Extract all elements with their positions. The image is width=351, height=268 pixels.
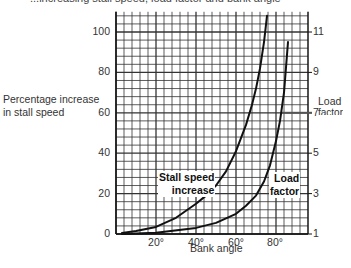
x-axis-title: Bank angle: [190, 242, 243, 254]
chart-plot: [0, 0, 351, 268]
y2-tick-7: 7: [313, 106, 319, 118]
y-tick-20: 20: [80, 187, 110, 199]
load-factor-curve-label: Load factor: [269, 172, 300, 198]
y2-axis-title-line1: Load: [318, 96, 343, 107]
stall-speed-curve-label: Stall speed increase: [158, 171, 215, 197]
y-tick-0: 0: [80, 227, 110, 239]
x-tick-80: 80°: [260, 236, 290, 248]
x-tick-20: 20°: [141, 236, 171, 248]
y2-tick-3: 3: [313, 187, 319, 199]
load-label-line2: factor: [270, 185, 299, 198]
load-label-line1: Load: [270, 172, 299, 185]
y-tick-40: 40: [80, 146, 110, 158]
y-tick-80: 80: [80, 65, 110, 77]
chart-grid: [116, 12, 312, 234]
stall-label-line1: Stall speed: [159, 171, 214, 184]
y2-tick-5: 5: [313, 146, 319, 158]
stall-label-line2: increase: [159, 184, 214, 197]
y2-tick-11: 11: [313, 25, 324, 37]
load-factor-curve: [122, 42, 288, 234]
y-tick-60: 60: [80, 106, 110, 118]
y2-tick-1: 1: [313, 227, 319, 239]
y-tick-100: 100: [80, 25, 110, 37]
y2-axis-title-line2: factor: [318, 107, 343, 115]
y2-axis-title: Load factor: [318, 96, 343, 115]
y2-tick-9: 9: [313, 65, 319, 77]
y-axis-title-line1: Percentage increase: [3, 93, 113, 106]
